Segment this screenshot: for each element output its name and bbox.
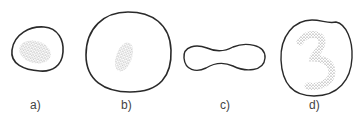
panel-a-shape	[12, 27, 63, 71]
diagram-canvas	[0, 0, 360, 124]
panel-c-shape	[184, 45, 265, 71]
panel-d-shape	[281, 20, 352, 96]
panel-b-shape	[86, 12, 171, 92]
panel-d-label: d)	[309, 98, 320, 112]
panel-b-label: b)	[121, 98, 132, 112]
panel-c-label: c)	[220, 98, 230, 112]
panel-a-label: a)	[30, 98, 41, 112]
